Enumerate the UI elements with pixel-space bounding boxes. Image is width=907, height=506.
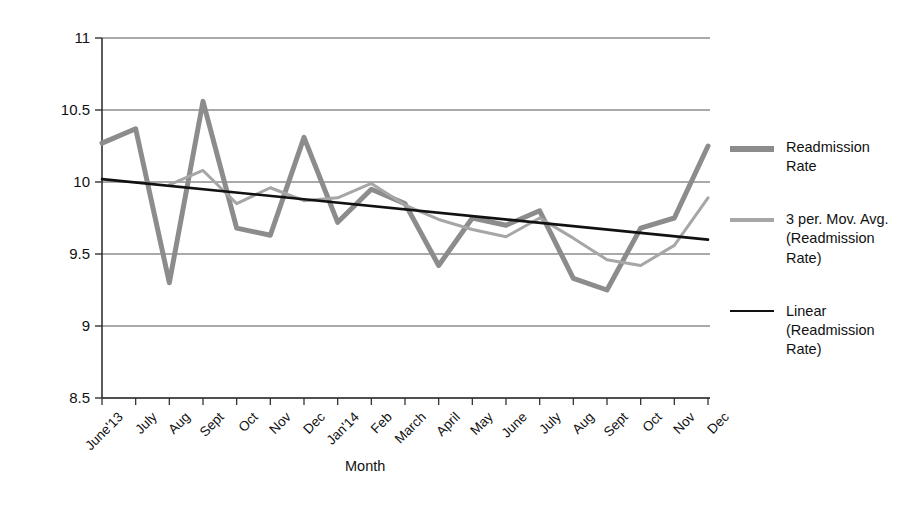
legend-label-linear-trend: Linear (Readmission Rate)	[786, 302, 904, 359]
y-tick-label: 9.5	[28, 246, 90, 261]
y-tick-label: 8.5	[28, 390, 90, 405]
axis-lines	[102, 38, 710, 398]
x-tick-marks	[102, 398, 708, 405]
gridlines	[102, 38, 710, 398]
y-tick-label: 9	[28, 318, 90, 333]
readmission-rate-chart: 1110.5109.598.5 June'13JulyAugSeptOctNov…	[0, 0, 907, 506]
y-tick-label: 10.5	[28, 102, 90, 117]
legend-swatch-moving-average	[730, 218, 774, 222]
y-tick-marks	[95, 38, 102, 398]
legend-item-readmission-rate: Readmission Rate	[730, 138, 905, 176]
legend-label-moving-average: 3 per. Mov. Avg. (Readmission Rate)	[786, 210, 904, 267]
data-series-layer	[102, 101, 708, 290]
legend-item-moving-average: 3 per. Mov. Avg. (Readmission Rate)	[730, 210, 905, 267]
legend-swatch-readmission-rate	[730, 146, 774, 152]
y-tick-label: 10	[28, 174, 90, 189]
y-tick-label: 11	[28, 30, 90, 45]
chart-legend: Readmission Rate 3 per. Mov. Avg. (Readm…	[730, 138, 905, 393]
x-axis-title: Month	[345, 458, 385, 474]
legend-item-linear-trend: Linear (Readmission Rate)	[730, 302, 905, 359]
legend-label-readmission-rate: Readmission Rate	[786, 138, 904, 176]
legend-swatch-linear-trend	[730, 310, 774, 312]
